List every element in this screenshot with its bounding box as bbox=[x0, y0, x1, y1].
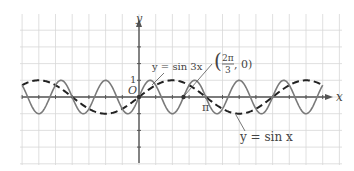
origin-point bbox=[137, 95, 141, 99]
chart: y x O 1 π y = sin 3x y = sin x ( 2π 3 , … bbox=[0, 0, 354, 171]
point-label: ( 2π 3 , 0) bbox=[214, 49, 252, 75]
x-axis-label: x bbox=[336, 90, 343, 104]
tick-label-pi: π bbox=[202, 101, 209, 114]
sinx-label: y = sin x bbox=[239, 130, 293, 144]
point-denominator: 3 bbox=[225, 65, 231, 75]
point-numerator: 2π bbox=[222, 53, 234, 63]
marked-point bbox=[181, 95, 185, 99]
origin-label: O bbox=[128, 84, 137, 97]
point-rest: , 0) bbox=[234, 58, 252, 71]
sinx-leader-line bbox=[236, 115, 245, 131]
y-axis-label: y bbox=[135, 12, 143, 25]
x-axis-arrow-icon bbox=[325, 94, 333, 100]
tick-label-one: 1 bbox=[130, 74, 136, 85]
sin3x-label: y = sin 3x bbox=[151, 61, 203, 72]
point-open-paren: ( bbox=[214, 49, 222, 73]
